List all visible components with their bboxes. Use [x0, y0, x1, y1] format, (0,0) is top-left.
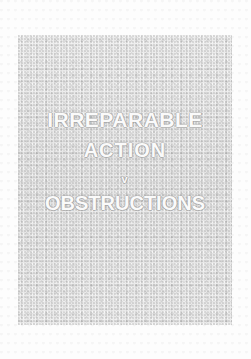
title-line-2: ACTION: [18, 140, 232, 160]
title-line-4: OBSTRUCTIONS: [18, 193, 232, 213]
page-canvas: IRREPARABLE ACTION v OBSTRUCTIONS: [0, 0, 251, 359]
title-line-1: IRREPARABLE: [18, 109, 232, 130]
title-line-versus: v: [18, 174, 232, 185]
title-block: IRREPARABLE ACTION v OBSTRUCTIONS: [18, 109, 232, 213]
textured-paper-panel: IRREPARABLE ACTION v OBSTRUCTIONS: [18, 35, 232, 325]
